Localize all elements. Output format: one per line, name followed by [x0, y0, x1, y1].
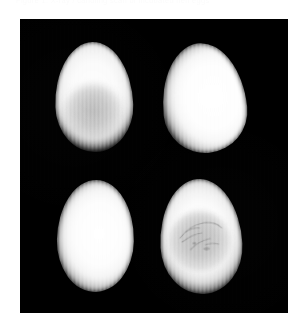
egg-specimen-top-right: [156, 39, 251, 157]
vein-paths: [157, 177, 245, 296]
image-grain-overlay: [20, 19, 288, 313]
figure-caption-strip: Figure 1. X-ray / candling scan of incub…: [0, 0, 305, 14]
scan-image-panel: [20, 19, 288, 313]
egg-specimen-top-left: [53, 41, 135, 154]
figure-caption-text: Figure 1. X-ray / candling scan of incub…: [16, 0, 210, 6]
egg-specimen-bottom-left: [56, 179, 135, 292]
egg-shell-top-right: [156, 39, 251, 157]
egg-specimen-bottom-right: [157, 177, 245, 296]
scanline-striping-overlay: [20, 19, 288, 313]
egg-vasculature-bottom-right: [157, 177, 245, 296]
egg-shell-bottom-left: [56, 179, 135, 292]
